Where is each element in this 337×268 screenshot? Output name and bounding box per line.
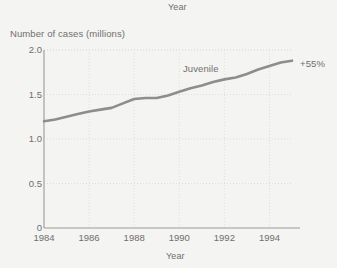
- y-tick-labels: 00.51.01.52.0: [6, 0, 42, 268]
- plot-area: [0, 0, 337, 268]
- series-label-juvenile: Juvenile: [183, 63, 219, 74]
- x-tick-label: 1986: [69, 232, 109, 243]
- y-tick-label: 1.0: [12, 133, 42, 144]
- chart-container: Year Number of cases (millions) 00.51.01…: [0, 0, 337, 268]
- x-tick-label: 1990: [159, 232, 199, 243]
- axis-lines: [44, 50, 300, 228]
- x-tick-label: 1984: [24, 232, 64, 243]
- series-line-juvenile: [44, 61, 292, 122]
- growth-annotation: +55%: [300, 58, 325, 69]
- gridlines: [44, 50, 292, 228]
- x-tick-label: 1992: [204, 232, 244, 243]
- x-axis-title: Year: [166, 251, 185, 261]
- series-lines: [44, 61, 292, 122]
- y-tick-label: 2.0: [12, 44, 42, 55]
- y-tick-label: 1.5: [12, 89, 42, 100]
- x-tick-label: 1994: [249, 232, 289, 243]
- y-tick-label: 0.5: [12, 178, 42, 189]
- x-tick-label: 1988: [114, 232, 154, 243]
